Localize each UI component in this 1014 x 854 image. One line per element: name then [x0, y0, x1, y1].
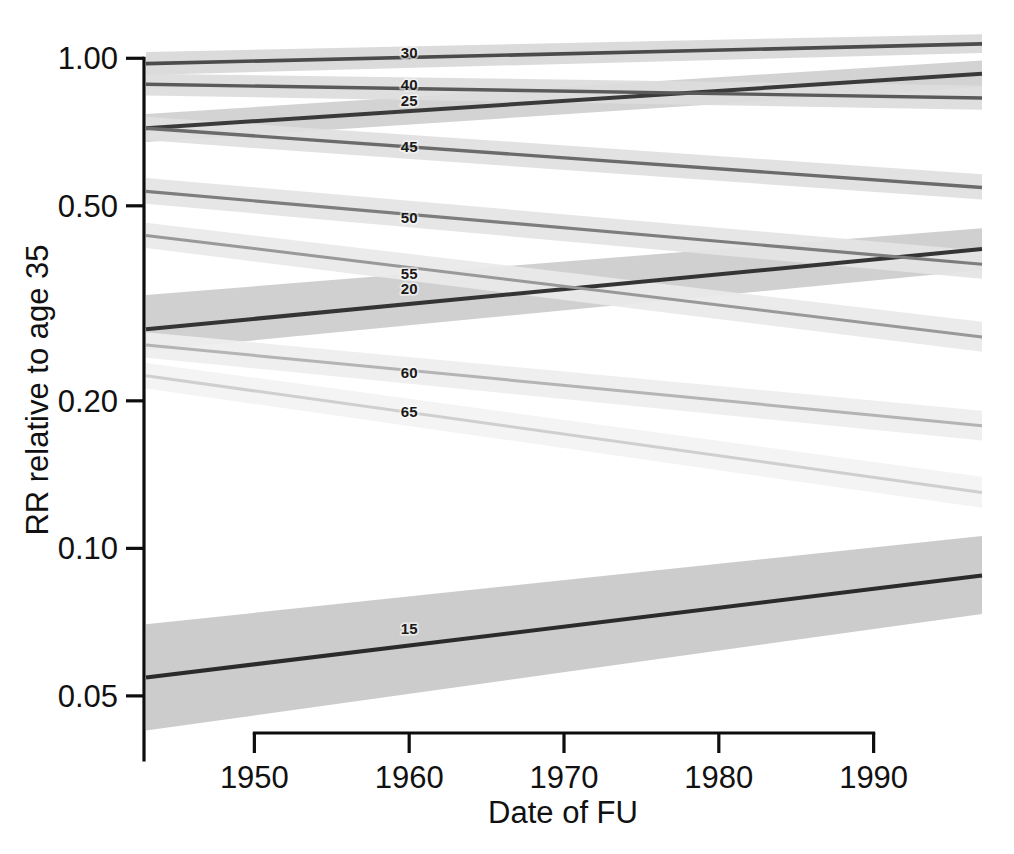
x-tick-label: 1960 — [375, 760, 444, 795]
series-label-65: 65 — [401, 403, 418, 420]
x-tick-label: 1950 — [220, 760, 289, 795]
chart-container: 3030404025254545505055552020606065651515… — [0, 0, 1014, 854]
x-axis-ticks: 19501960197019801990 — [220, 733, 908, 795]
chart-plot: 3030404025254545505055552020606065651515… — [0, 0, 1014, 854]
y-tick-label: 1.00 — [58, 41, 118, 76]
series-label-30: 30 — [401, 44, 418, 61]
ci-band-15 — [146, 536, 982, 731]
x-tick-label: 1990 — [839, 760, 908, 795]
y-tick-label: 0.05 — [58, 679, 118, 714]
series-line-45 — [146, 128, 982, 187]
series-label-15: 15 — [401, 620, 418, 637]
series-label-20: 20 — [401, 280, 418, 297]
y-tick-label: 0.10 — [58, 531, 118, 566]
y-axis-title: RR relative to age 35 — [20, 244, 55, 535]
series-labels-group: 3030404025254545505055552020606065651515 — [401, 44, 418, 637]
series-label-60: 60 — [401, 364, 418, 381]
y-tick-label: 0.20 — [58, 384, 118, 419]
x-tick-label: 1980 — [684, 760, 753, 795]
series-label-45: 45 — [401, 138, 418, 155]
x-axis-title: Date of FU — [488, 795, 638, 830]
y-axis-ticks: 0.050.100.200.501.00 — [58, 41, 144, 714]
series-label-25: 25 — [401, 92, 418, 109]
y-tick-label: 0.50 — [58, 189, 118, 224]
x-tick-label: 1970 — [530, 760, 599, 795]
series-label-50: 50 — [401, 209, 418, 226]
series-label-40: 40 — [401, 76, 418, 93]
